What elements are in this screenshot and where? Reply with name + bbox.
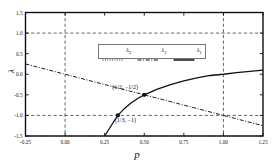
legend-swatch-dashdot xyxy=(137,49,159,55)
legend-item-λ3: λ3 xyxy=(102,48,131,55)
data-series xyxy=(26,64,264,136)
legend-swatch-dotted xyxy=(102,49,124,55)
x-tick-label: 1.00 xyxy=(208,139,238,145)
legend: λ3λ2λ1 xyxy=(98,44,206,59)
legend-item-λ1: λ1 xyxy=(173,48,202,55)
y-tick-label: -0.5 xyxy=(5,92,23,98)
legend-label: λ1 xyxy=(197,47,202,56)
x-tick-label: -0.25 xyxy=(11,139,41,145)
legend-item-λ2: λ2 xyxy=(137,48,166,55)
y-tick-label: 1.5 xyxy=(5,10,23,16)
y-tick-label: 0.5 xyxy=(5,51,23,57)
x-axis-label: p xyxy=(0,148,274,160)
legend-label: λ2 xyxy=(161,47,166,56)
series-line-λ1 xyxy=(105,70,263,136)
y-tick-label: 1.0 xyxy=(5,30,23,36)
x-tick-label: 0.75 xyxy=(169,139,199,145)
x-tick-label: 0.25 xyxy=(90,139,120,145)
x-tick-label: 1.25 xyxy=(248,139,274,145)
x-tick-label: 0.00 xyxy=(50,139,80,145)
y-axis-label: λ xyxy=(6,59,16,83)
x-tick-label: 0.50 xyxy=(129,139,159,145)
figure: -0.250.000.250.500.751.001.25 1.51.00.50… xyxy=(0,0,274,166)
legend-swatch-solid xyxy=(173,49,195,55)
data-point-marker xyxy=(142,93,146,97)
annotation-label: (1/2, −1/2) xyxy=(112,84,138,90)
y-tick-label: -1.5 xyxy=(5,133,23,139)
y-tick-label: -1.0 xyxy=(5,112,23,118)
legend-label: λ3 xyxy=(126,47,131,56)
annotation-label: (1/3, −1) xyxy=(115,117,136,123)
